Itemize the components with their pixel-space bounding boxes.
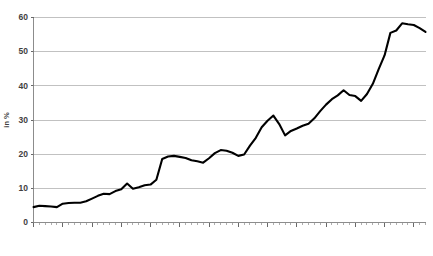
y-axis-title-text: in % [2,112,11,128]
y-tick-label-30: 30 [19,115,29,125]
y-axis-title: in % [2,112,11,128]
y-tick-label-40: 40 [19,81,29,91]
axis-ticks [31,18,426,228]
gridlines [34,18,426,189]
line-chart: 0102030405060 19501955196019651970197519… [0,0,433,256]
y-tick-label-0: 0 [23,217,28,227]
chart-canvas: 0102030405060 19501955196019651970197519… [0,0,433,256]
y-tick-label-20: 20 [19,149,29,159]
y-tick-label-60: 60 [19,12,29,22]
data-series [34,23,426,207]
series-line-in-% [34,23,426,207]
y-tick-label-50: 50 [19,46,29,56]
y-tick-label-10: 10 [19,183,29,193]
y-axis-tick-labels: 0102030405060 [19,12,29,227]
